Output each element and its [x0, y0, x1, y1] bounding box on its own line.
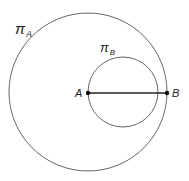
point-a	[86, 91, 90, 95]
label-point-b: B	[172, 87, 179, 99]
circle-diagram: πA πB A B	[0, 0, 189, 181]
label-pi-a: πA	[15, 20, 32, 39]
label-point-a: A	[74, 87, 82, 99]
circle-pi-b	[88, 57, 158, 127]
label-pi-b: πB	[100, 40, 116, 57]
point-b	[165, 91, 169, 95]
